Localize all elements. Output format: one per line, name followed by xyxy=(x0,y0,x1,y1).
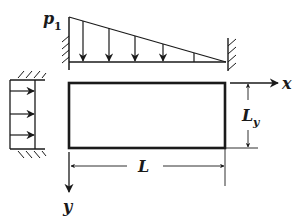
side-uniform-load xyxy=(10,80,45,149)
top-triangular-load xyxy=(69,17,226,70)
length-label: L xyxy=(137,157,149,176)
y-axis-label: y xyxy=(62,197,74,216)
load-label-p: p xyxy=(43,9,54,28)
right-wall-hatch xyxy=(228,38,236,71)
side-load-bottom-hatch xyxy=(18,151,46,158)
height-label-subscript: y xyxy=(252,116,261,129)
x-axis-label: x xyxy=(281,74,292,93)
left-wall-hatch xyxy=(62,36,69,63)
height-label: L xyxy=(241,106,253,125)
diagram-canvas: p 1 x y L y L xyxy=(0,0,299,222)
load-label-subscript: 1 xyxy=(54,20,62,33)
side-load-top-hatch xyxy=(18,71,46,78)
plate-rectangle xyxy=(69,83,225,148)
